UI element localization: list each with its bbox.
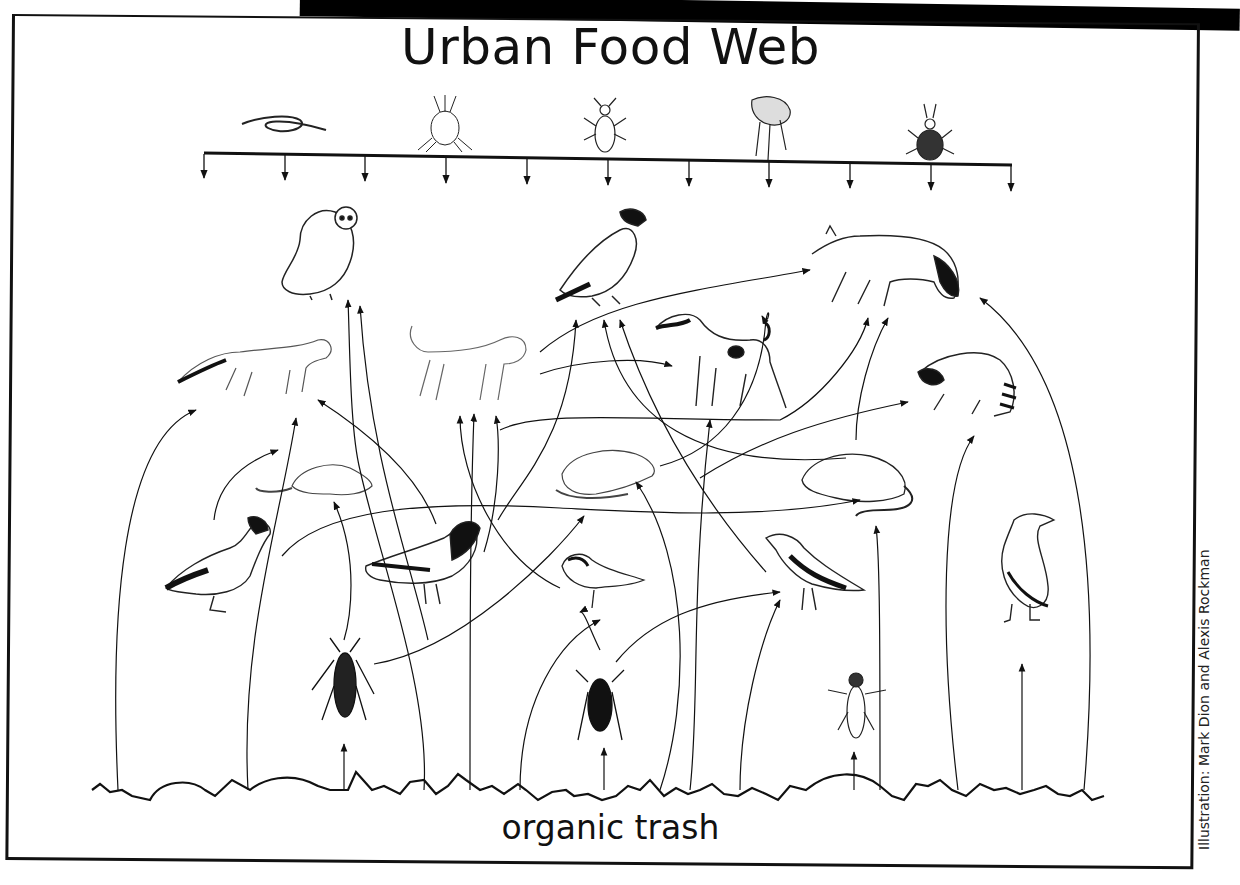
dog-icon bbox=[656, 314, 786, 408]
owl-icon bbox=[282, 207, 357, 300]
louse-icon bbox=[584, 98, 626, 152]
parasite-bar bbox=[204, 153, 1012, 191]
coyote-icon bbox=[812, 226, 959, 306]
sparrow-icon bbox=[562, 554, 644, 608]
rat-icon bbox=[556, 451, 654, 498]
mouse-icon bbox=[256, 465, 372, 495]
falcon-icon bbox=[556, 209, 646, 306]
cockroach-icon bbox=[312, 638, 374, 720]
organic-trash-ground bbox=[92, 772, 1104, 800]
tick-icon bbox=[906, 104, 954, 160]
fly-icon bbox=[828, 673, 886, 738]
roundworm-icon bbox=[242, 117, 326, 132]
raccoon-icon bbox=[918, 353, 1016, 416]
red-fox-icon bbox=[178, 340, 331, 396]
gull-icon bbox=[1002, 514, 1054, 622]
mallard-duck-icon bbox=[166, 517, 270, 612]
house-fly-icon bbox=[576, 670, 624, 740]
cat-icon bbox=[410, 326, 526, 400]
mite-icon bbox=[418, 95, 472, 152]
starling-icon bbox=[766, 534, 864, 610]
flea-icon bbox=[752, 97, 791, 160]
pigeon-icon bbox=[366, 522, 480, 604]
illustration-credit: Illustration: Mark Dion and Alexis Rockm… bbox=[1196, 549, 1212, 850]
ground-label: organic trash bbox=[0, 808, 1221, 847]
